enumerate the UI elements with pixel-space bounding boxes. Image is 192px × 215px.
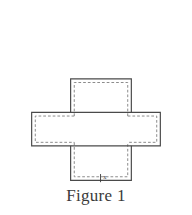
top-panel-fill (71, 79, 132, 113)
figure-caption: Figure 1 (0, 185, 192, 207)
box-net-diagram: x (0, 68, 192, 184)
figure-container: x Figure 1 (0, 0, 192, 215)
middle-bar-fill (32, 112, 161, 146)
panel-fills (32, 79, 161, 181)
